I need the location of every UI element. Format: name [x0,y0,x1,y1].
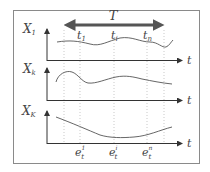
svg-text:XK: XK [21,104,37,119]
svg-text:ent: ent [142,144,153,161]
svg-text:t1: t1 [77,29,86,43]
panel-label: X [22,62,32,76]
panel-label: X [21,104,31,118]
svg-text:eit: eit [109,144,118,161]
svg-text:X1: X1 [22,22,36,37]
svg-text:tn: tn [143,29,152,43]
panel-label: X [22,22,32,36]
diagram-frame [14,11,200,164]
event-labels: e1t eit ent [75,144,153,161]
panel-x1: X1 t [22,22,192,67]
svg-text:Xk: Xk [22,62,36,77]
panel-xk: Xk t [22,62,192,107]
x-axis-label: t [187,94,192,107]
time-series-window-diagram: T t1 ti tn X1 t Xk t XK t e1t eit ent [0,0,210,172]
period-label: T [109,8,119,23]
svg-text:e1t: e1t [75,144,85,161]
panel-xK: XK t [21,104,192,150]
x-axis-label: t [187,137,192,150]
x-axis-label: t [187,54,192,67]
